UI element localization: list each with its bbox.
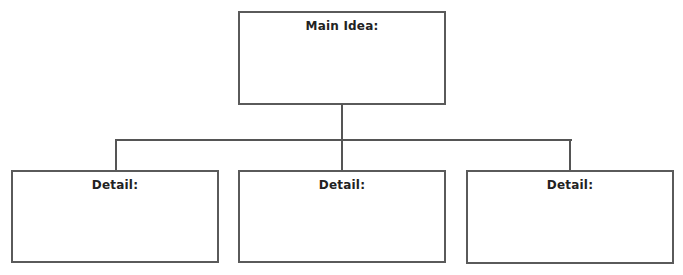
detail-label: Detail: <box>468 178 672 192</box>
main-idea-label: Main Idea: <box>240 19 444 33</box>
main-idea-box: Main Idea: <box>238 11 446 105</box>
connector-horizontal <box>115 139 572 141</box>
connector-branch-3 <box>569 139 571 171</box>
detail-box-3: Detail: <box>466 170 674 264</box>
connector-trunk <box>341 104 343 141</box>
detail-box-2: Detail: <box>238 170 446 263</box>
connector-branch-2 <box>341 139 343 171</box>
detail-label: Detail: <box>240 178 444 192</box>
connector-branch-1 <box>115 139 117 171</box>
detail-box-1: Detail: <box>11 170 219 263</box>
detail-label: Detail: <box>13 178 217 192</box>
